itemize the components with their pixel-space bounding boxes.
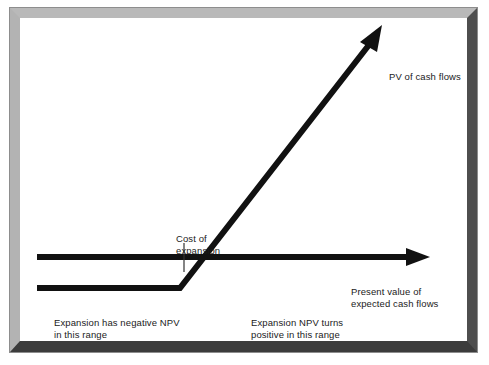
label-present-value-axis-title: Present value ofexpected cash flows bbox=[351, 286, 438, 310]
label-positive-npv-range-line1: Expansion NPV turns bbox=[251, 317, 343, 328]
horizontal-axis-arrowhead bbox=[406, 248, 430, 266]
diagram-stage: PV of cash flows Cost ofexpansion Presen… bbox=[0, 0, 489, 365]
label-negative-npv-range-line2: in this range bbox=[54, 329, 107, 340]
label-present-value-line2: expected cash flows bbox=[351, 298, 438, 309]
label-cost-of-expansion-line2: expansion bbox=[176, 245, 220, 256]
horizontal-axis bbox=[37, 248, 430, 266]
label-cost-of-expansion: Cost ofexpansion bbox=[176, 233, 220, 257]
label-negative-npv-range: Expansion has negative NPVin this range bbox=[54, 317, 180, 341]
label-cost-of-expansion-line1: Cost of bbox=[176, 233, 207, 244]
diagram-canvas: PV of cash flows Cost ofexpansion Presen… bbox=[20, 18, 467, 341]
label-present-value-line1: Present value of bbox=[351, 286, 421, 297]
label-pv-of-cash-flows: PV of cash flows bbox=[389, 71, 461, 83]
label-positive-npv-range: Expansion NPV turnspositive in this rang… bbox=[251, 317, 343, 341]
label-negative-npv-range-line1: Expansion has negative NPV bbox=[54, 317, 180, 328]
label-positive-npv-range-line2: positive in this range bbox=[251, 329, 340, 340]
